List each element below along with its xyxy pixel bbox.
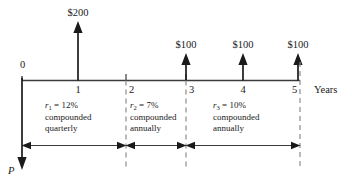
cash-flow-label-year-5: $100	[288, 40, 309, 51]
present-value-arrow	[17, 78, 26, 170]
year-label-1: 1	[75, 85, 80, 96]
interest-segment-3: r3 = 10% compounded annually	[213, 100, 260, 135]
year-label-5: 5	[292, 85, 297, 96]
interest-segment-3-line2: compounded	[213, 112, 260, 124]
span-arrow-segment-3	[186, 142, 301, 149]
cash-flow-diagram: $200 $100 $100 $100 0 1 2 3 4 5 Years P …	[0, 0, 352, 183]
rate-value: = 7%	[139, 100, 158, 110]
rate-symbol: r	[45, 100, 49, 110]
cash-flow-arrow-year-5	[293, 53, 302, 81]
rate-subscript: 3	[217, 104, 220, 111]
cash-flow-arrow-year-4	[238, 53, 247, 81]
year-label-4: 4	[240, 85, 245, 96]
interest-segment-1-line3: quarterly	[45, 123, 92, 135]
present-value-label: P	[8, 166, 14, 177]
interest-segment-3-rate: r3 = 10%	[213, 100, 260, 112]
interest-segment-2-line3: annually	[130, 123, 177, 135]
interest-segment-2: r2 = 7% compounded annually	[130, 100, 177, 135]
rate-symbol: r	[130, 100, 134, 110]
interest-segment-1-line2: compounded	[45, 112, 92, 124]
rate-value: = 10%	[222, 100, 246, 110]
rate-subscript: 2	[134, 104, 137, 111]
interest-segment-3-line3: annually	[213, 123, 260, 135]
timeline-svg	[0, 0, 352, 183]
axis-label-years: Years	[314, 85, 337, 96]
cash-flow-label-year-1: $200	[68, 8, 89, 19]
year-label-3: 3	[189, 85, 194, 96]
year-label-2: 2	[129, 85, 134, 96]
interest-segment-2-line2: compounded	[130, 112, 177, 124]
cash-flow-label-year-4: $100	[233, 40, 254, 51]
interest-segment-1-rate: r1 = 12%	[45, 100, 92, 112]
interest-segment-2-rate: r2 = 7%	[130, 100, 177, 112]
rate-value: = 12%	[54, 100, 78, 110]
cash-flow-label-year-3: $100	[176, 40, 197, 51]
rate-symbol: r	[213, 100, 217, 110]
rate-subscript: 1	[49, 104, 52, 111]
cash-flow-arrow-year-1	[73, 21, 82, 81]
span-arrow-segment-1	[22, 142, 127, 149]
cash-flow-arrow-year-3	[181, 53, 190, 81]
interest-segment-1: r1 = 12% compounded quarterly	[45, 100, 92, 135]
year-label-0: 0	[20, 60, 25, 71]
span-arrow-segment-2	[126, 142, 187, 149]
